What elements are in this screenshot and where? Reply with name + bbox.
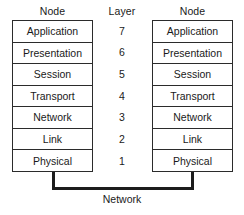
layer-number-7: 7 [96, 20, 148, 42]
column-header-layer: Layer [96, 4, 148, 18]
layer-cell-left-presentation: Presentation [13, 43, 92, 65]
connector-bottom-bar [52, 187, 194, 190]
layer-cell-right-network: Network [153, 107, 232, 129]
layer-cell-left-session: Session [13, 64, 92, 86]
layer-number-2: 2 [96, 129, 148, 151]
node-stack-right: Application Presentation Session Transpo… [152, 20, 233, 172]
osi-layer-diagram: Node Layer Node Application Presentation… [0, 0, 244, 215]
layer-cell-right-link: Link [153, 129, 232, 151]
layer-cell-left-application: Application [13, 21, 92, 43]
layer-cell-right-presentation: Presentation [153, 43, 232, 65]
layer-cell-left-link: Link [13, 129, 92, 151]
node-stack-left: Application Presentation Session Transpo… [12, 20, 93, 172]
layer-number-5: 5 [96, 63, 148, 85]
layer-cell-right-session: Session [153, 64, 232, 86]
layer-cell-left-transport: Transport [13, 86, 92, 108]
layer-number-3: 3 [96, 107, 148, 129]
layer-cell-right-application: Application [153, 21, 232, 43]
layer-number-4: 4 [96, 85, 148, 107]
network-connector-label: Network [72, 192, 172, 206]
layer-number-6: 6 [96, 42, 148, 64]
layer-cell-left-network: Network [13, 107, 92, 129]
network-connector [0, 168, 244, 194]
layer-cell-right-transport: Transport [153, 86, 232, 108]
column-header-node-right: Node [152, 4, 233, 18]
column-header-node-left: Node [12, 4, 93, 18]
layer-number-column: 7 6 5 4 3 2 1 [96, 20, 148, 172]
